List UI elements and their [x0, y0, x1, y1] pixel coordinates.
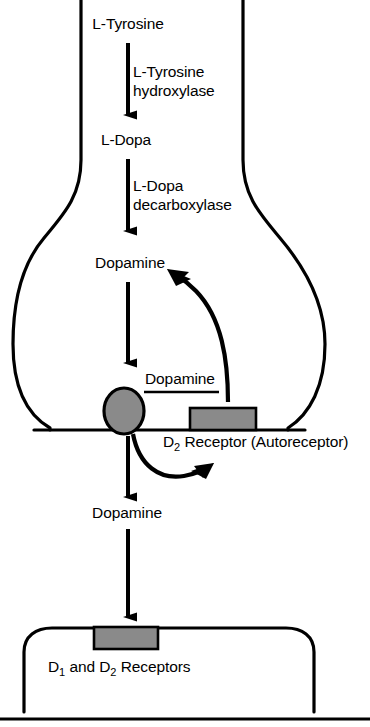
postsynaptic-receptors-word: Receptors [116, 658, 190, 675]
label-postsynaptic-receptors: D1 and D2 Receptors [48, 659, 190, 675]
postsynaptic-d2-subscript: 2 [110, 666, 116, 678]
postsynaptic-d1-subscript: 1 [59, 666, 65, 678]
label-dopa-decarboxylase-line2: decarboxylase [133, 197, 232, 213]
d2-autoreceptor-d: D [163, 433, 174, 450]
label-tyrosine-hydroxylase-line1: L-Tyrosine [133, 64, 204, 80]
label-dopa-decarboxylase-line1: L-Dopa [133, 178, 183, 194]
dopamine-vesicle [104, 388, 144, 434]
postsynaptic-receptor-block [94, 627, 158, 649]
d2-autoreceptor-subscript: 2 [174, 441, 180, 453]
label-vesicle-dopamine: Dopamine [145, 371, 215, 387]
dopamine-pathway-diagram: L-Tyrosine L-Tyrosine hydroxylase L-Dopa… [0, 0, 370, 727]
label-dopamine-released: Dopamine [92, 505, 162, 521]
postsynaptic-and: and D [65, 658, 110, 675]
label-l-tyrosine: L-Tyrosine [92, 16, 163, 32]
d2-autoreceptor-block [190, 408, 256, 430]
label-dopamine-cytosolic: Dopamine [95, 255, 165, 271]
label-d2-autoreceptor: D2 Receptor (Autoreceptor) [163, 434, 348, 450]
d2-autoreceptor-rest: Receptor (Autoreceptor) [180, 433, 348, 450]
label-tyrosine-hydroxylase-line2: hydroxylase [133, 83, 215, 99]
postsynaptic-d1: D [48, 658, 59, 675]
diagram-canvas [0, 0, 370, 727]
label-l-dopa: L-Dopa [101, 132, 151, 148]
